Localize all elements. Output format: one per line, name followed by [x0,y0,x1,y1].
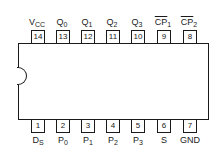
pin-label-1: DS [25,135,51,145]
pin-1: 1 [31,120,45,133]
pin-9: 9 [157,30,171,43]
pin-14: 14 [31,30,45,43]
pin-label-13: Q0 [49,17,75,27]
pin-label-7: GND [177,135,203,145]
pin-11: 11 [106,30,120,43]
pin-6: 6 [157,120,171,133]
pin-label-4: P2 [100,135,126,145]
pin-label-2: P0 [50,135,76,145]
pin-4: 4 [106,120,120,133]
pin-13: 13 [56,30,70,43]
pin-label-14: VCC [24,17,50,27]
pin-2: 2 [56,120,70,133]
pin-12: 12 [81,30,95,43]
pin-label-8: CP2 [176,17,202,27]
pin-label-9: CP1 [150,17,176,27]
pin-label-5: P3 [125,135,151,145]
pin-10: 10 [131,30,145,43]
pin-label-10: Q3 [124,17,150,27]
pin-8: 8 [183,30,197,43]
pin-5: 5 [131,120,145,133]
ic-package-body [18,43,209,120]
pin-label-3: P1 [75,135,101,145]
pin-3: 3 [81,120,95,133]
pin-label-6: S [151,135,177,145]
pin-7: 7 [183,120,197,133]
pin-label-12: Q1 [74,17,100,27]
pin-label-11: Q2 [99,17,125,27]
